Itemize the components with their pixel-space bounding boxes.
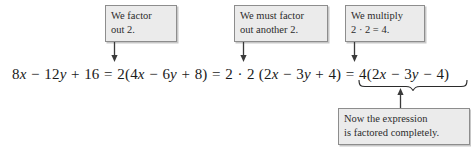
callout-factored-completely: Now the expression is factored completel… xyxy=(338,108,470,145)
callout-factor-out-2-line1: We factor xyxy=(111,9,171,23)
operator-minus: − xyxy=(27,66,45,82)
equation-step-1: 2(4x−6y+8) xyxy=(117,66,207,83)
term-16: 16 xyxy=(84,66,99,82)
callout-factored-completely-line1: Now the expression xyxy=(344,112,464,126)
arrow-down-to-4-icon xyxy=(350,42,359,62)
callout-multiply-line1: We multiply xyxy=(351,9,419,23)
equation-line: 8x−12y+16 = 2(4x−6y+8) = 2·2 (2x−3y+4) =… xyxy=(12,62,449,86)
arrow-up-from-underbrace-icon xyxy=(396,88,405,108)
arrow-down-to-second-2-icon xyxy=(239,42,248,62)
equation-step-2: 2·2 (2x−3y+4) xyxy=(225,66,341,83)
equation-original: 8x−12y+16 xyxy=(12,66,100,83)
equals-sign-2: = xyxy=(208,66,226,83)
callout-multiply: We multiply 2 · 2 = 4. xyxy=(345,5,425,42)
callout-factor-another-2: We must factor out another 2. xyxy=(234,5,328,42)
callout-factored-completely-line2: is factored completely. xyxy=(344,126,464,140)
arrow-down-to-factor-2-icon xyxy=(110,42,119,62)
callout-multiply-line2: 2 · 2 = 4. xyxy=(351,23,419,37)
term-8x: 8x xyxy=(12,66,27,82)
factoring-figure: We factor out 2. We must factor out anot… xyxy=(0,0,471,148)
equation-result: 4(2x−3y−4) xyxy=(359,66,449,83)
equals-sign-1: = xyxy=(100,66,118,83)
callout-factor-out-2-line2: out 2. xyxy=(111,23,171,37)
callout-factor-another-2-line2: out another 2. xyxy=(240,23,322,37)
operator-plus: + xyxy=(67,66,85,82)
callout-factor-out-2: We factor out 2. xyxy=(105,5,177,42)
term-12y: 12y xyxy=(44,66,66,82)
equals-sign-3: = xyxy=(341,66,359,83)
callout-factor-another-2-line1: We must factor xyxy=(240,9,322,23)
